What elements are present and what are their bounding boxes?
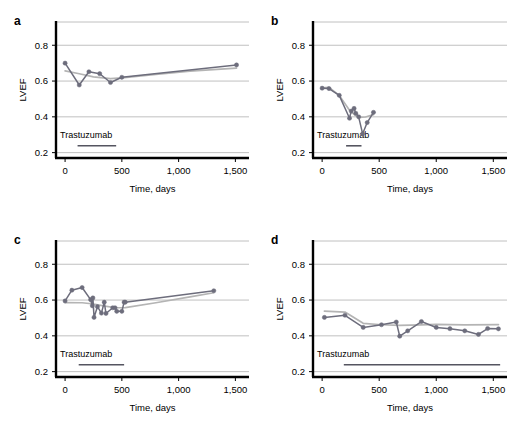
- svg-text:0.2: 0.2: [35, 147, 48, 158]
- svg-text:0.4: 0.4: [292, 330, 305, 341]
- svg-text:Time, days: Time, days: [129, 183, 175, 194]
- svg-text:1,000: 1,000: [167, 165, 191, 176]
- svg-text:0.6: 0.6: [35, 75, 48, 86]
- svg-text:0: 0: [62, 165, 67, 176]
- svg-text:0.8: 0.8: [35, 40, 48, 51]
- svg-text:0.2: 0.2: [292, 366, 305, 377]
- panel-a: a 0.20.40.60.805001,0001,500LVEFTime, da…: [0, 0, 257, 219]
- svg-text:0.8: 0.8: [292, 40, 305, 51]
- svg-text:0.4: 0.4: [35, 330, 48, 341]
- svg-text:0.4: 0.4: [292, 111, 305, 122]
- svg-text:Time, days: Time, days: [129, 402, 175, 413]
- panel-b: b 0.20.40.60.805001,0001,500LVEFTime, da…: [257, 0, 515, 219]
- svg-text:Time, days: Time, days: [387, 183, 433, 194]
- svg-text:1,000: 1,000: [167, 384, 191, 395]
- svg-text:LVEF: LVEF: [274, 297, 285, 320]
- panel-c-plot: 0.20.40.60.805001,0001,500LVEFTime, days…: [0, 219, 257, 439]
- svg-text:Time, days: Time, days: [387, 402, 433, 413]
- svg-text:1,500: 1,500: [481, 384, 505, 395]
- svg-text:Trastuzumab: Trastuzumab: [60, 130, 112, 140]
- svg-text:0.2: 0.2: [35, 366, 48, 377]
- panel-c: c 0.20.40.60.805001,0001,500LVEFTime, da…: [0, 219, 257, 439]
- svg-text:0.2: 0.2: [292, 147, 305, 158]
- svg-text:0.6: 0.6: [292, 75, 305, 86]
- svg-text:1,500: 1,500: [223, 384, 247, 395]
- svg-text:500: 500: [371, 165, 387, 176]
- svg-text:500: 500: [114, 165, 130, 176]
- svg-text:500: 500: [114, 384, 130, 395]
- svg-text:0: 0: [319, 384, 324, 395]
- svg-text:1,000: 1,000: [424, 165, 448, 176]
- svg-text:Trastuzumab: Trastuzumab: [60, 349, 112, 359]
- figure-panel-grid: a 0.20.40.60.805001,0001,500LVEFTime, da…: [0, 0, 515, 439]
- svg-text:0.8: 0.8: [292, 259, 305, 270]
- svg-text:0: 0: [62, 384, 67, 395]
- svg-text:1,000: 1,000: [424, 384, 448, 395]
- svg-text:500: 500: [371, 384, 387, 395]
- svg-text:1,500: 1,500: [223, 165, 247, 176]
- svg-text:LVEF: LVEF: [17, 297, 28, 320]
- svg-text:LVEF: LVEF: [274, 78, 285, 101]
- svg-text:0.6: 0.6: [292, 294, 305, 305]
- svg-text:0.6: 0.6: [35, 294, 48, 305]
- panel-b-plot: 0.20.40.60.805001,0001,500LVEFTime, days…: [257, 0, 515, 219]
- svg-text:Trastuzumab: Trastuzumab: [317, 349, 369, 359]
- svg-text:0: 0: [319, 165, 324, 176]
- svg-text:LVEF: LVEF: [17, 78, 28, 101]
- panel-d: d 0.20.40.60.805001,0001,500LVEFTime, da…: [257, 219, 515, 439]
- panel-a-plot: 0.20.40.60.805001,0001,500LVEFTime, days…: [0, 0, 257, 219]
- svg-text:1,500: 1,500: [481, 165, 505, 176]
- svg-text:0.8: 0.8: [35, 259, 48, 270]
- svg-text:0.4: 0.4: [35, 111, 48, 122]
- panel-d-plot: 0.20.40.60.805001,0001,500LVEFTime, days…: [257, 219, 515, 439]
